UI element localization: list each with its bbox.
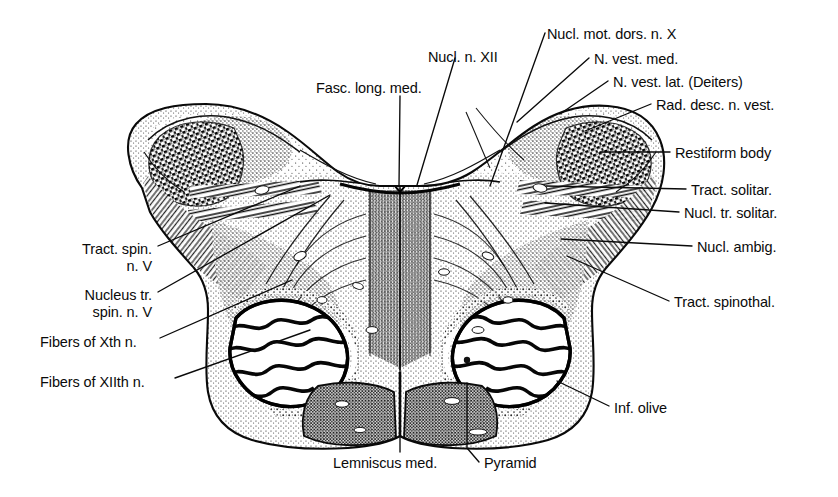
label-line: Nucleus tr. [85,287,152,304]
label-line: Nucl. tr. solitar. [684,205,777,222]
label-nucl-mot-dors-n-x: Nucl. mot. dors. n. X [547,26,676,43]
label-n-vest-med: N. vest. med. [594,51,678,68]
label-nucl-n-xii: Nucl. n. XII [428,49,498,66]
label-line: Tract. solitar. [691,182,772,199]
label-line: Inf. olive [614,400,667,417]
leader-nucl-n-xii [417,58,455,185]
label-line: Nucl. mot. dors. n. X [547,26,676,43]
label-line: Fasc. long. med. [316,80,422,97]
label-line: Tract. spinothal. [674,294,775,311]
label-fibers-of-xiith-n: Fibers of XIIth n. [40,374,145,391]
label-line: N. vest. lat. (Deiters) [613,74,743,91]
label-tract-spin-n-v: Tract. spin.n. V [82,241,152,275]
label-fasc-long-med: Fasc. long. med. [316,80,422,97]
label-line: Fibers of XIIth n. [40,374,145,391]
medial-lemniscus [360,185,444,375]
label-line: n. V [82,258,152,275]
label-line: N. vest. med. [594,51,678,68]
label-line: Fibers of Xth n. [40,334,137,351]
label-lemniscus-med: Lemniscus med. [333,455,437,472]
label-line: spin. n. V [85,304,152,321]
label-line: Restiform body [675,145,771,162]
label-line: Nucl. ambig. [697,239,776,256]
label-line: Tract. spin. [82,241,152,258]
figure-canvas: Fasc. long. med.Nucl. n. XIINucl. mot. d… [0,0,838,497]
label-nucleus-tr-spin-n-v: Nucleus tr.spin. n. V [85,287,152,321]
label-tract-solitar: Tract. solitar. [691,182,772,199]
label-rad-desc-n-vest: Rad. desc. n. vest. [656,97,774,114]
label-n-vest-lat-deiters: N. vest. lat. (Deiters) [613,74,743,91]
label-pyramid: Pyramid [484,455,536,472]
label-line: Rad. desc. n. vest. [656,97,774,114]
label-restiform-body: Restiform body [675,145,771,162]
label-inf-olive: Inf. olive [614,400,667,417]
leader-fasc-long-med [399,96,400,186]
label-nucl-ambig: Nucl. ambig. [697,239,776,256]
label-fibers-of-xth-n: Fibers of Xth n. [40,334,137,351]
label-line: Lemniscus med. [333,455,437,472]
label-nucl-tr-solitar: Nucl. tr. solitar. [684,205,777,222]
label-tract-spinothal: Tract. spinothal. [674,294,775,311]
label-line: Nucl. n. XII [428,49,498,66]
label-line: Pyramid [484,455,536,472]
